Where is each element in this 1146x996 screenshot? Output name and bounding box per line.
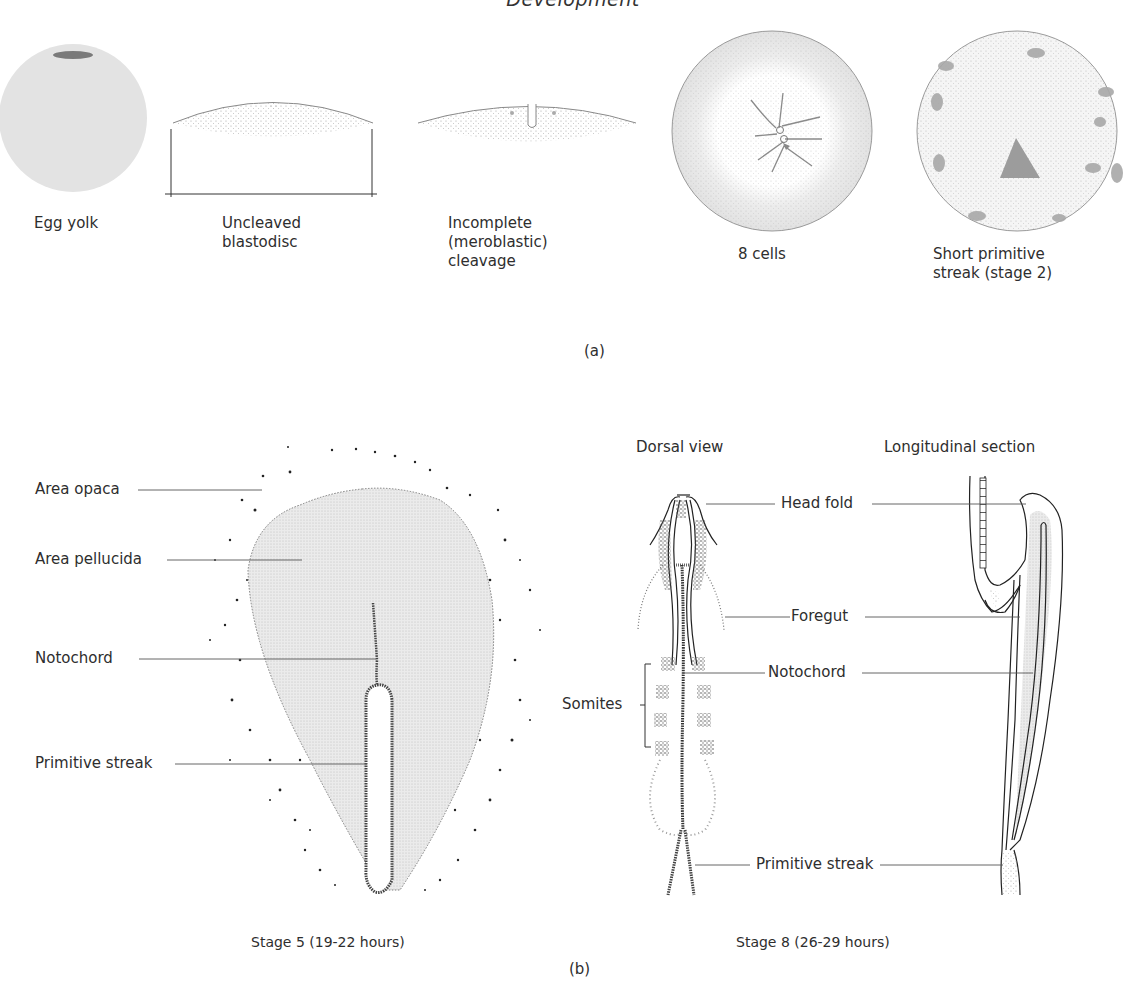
panel-label-a: (a) [584, 342, 605, 360]
label-notochord-stage5: Notochord [35, 649, 113, 668]
meroblastic-cleavage-drawing [418, 104, 636, 142]
label-dorsal-view: Dorsal view [636, 438, 723, 457]
label-meroblastic-cleavage: Incomplete (meroblastic) cleavage [448, 214, 548, 271]
caption-stage8: Stage 8 (26-29 hours) [736, 934, 890, 950]
short-primitive-streak-drawing [917, 31, 1123, 231]
stage5-embryo-drawing [138, 446, 541, 893]
label-head-fold: Head fold [781, 494, 853, 513]
caption-stage5: Stage 5 (19-22 hours) [251, 934, 405, 950]
stage8-dorsal-view-drawing [638, 495, 724, 895]
eight-cells-drawing [672, 31, 872, 231]
label-area-pellucida: Area pellucida [35, 550, 142, 569]
label-8-cells: 8 cells [738, 245, 786, 264]
label-foregut: Foregut [791, 607, 848, 626]
stage8-longitudinal-section-drawing [970, 476, 1063, 895]
label-somites: Somites [562, 695, 622, 714]
label-area-opaca: Area opaca [35, 480, 120, 499]
label-longitudinal-section: Longitudinal section [884, 438, 1035, 457]
label-egg-yolk: Egg yolk [34, 214, 98, 233]
label-short-primitive-streak: Short primitive streak (stage 2) [933, 245, 1052, 283]
figure-artwork [0, 0, 1146, 996]
uncleaved-blastodisc-drawing [165, 102, 377, 197]
egg-yolk-drawing [0, 44, 147, 192]
label-primitive-streak-stage5: Primitive streak [35, 754, 152, 773]
label-uncleaved-blastodisc: Uncleaved blastodisc [222, 214, 301, 252]
label-notochord-stage8: Notochord [768, 663, 846, 682]
panel-label-b: (b) [569, 960, 590, 978]
label-primitive-streak-stage8: Primitive streak [756, 855, 873, 874]
